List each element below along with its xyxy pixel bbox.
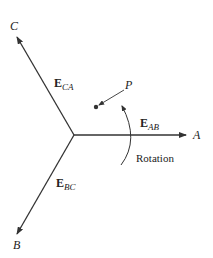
label-point-c: C — [10, 19, 19, 33]
label-point-a: A — [192, 128, 201, 142]
label-e-ab: EAB — [140, 116, 160, 132]
label-e-bc: EBC — [56, 176, 77, 192]
point-p-leader-arrow — [99, 90, 124, 105]
label-point-b: B — [13, 238, 21, 252]
phasor-diagram: C A B P ECA EAB EBC Rotation — [0, 0, 213, 258]
label-e-ca: ECA — [54, 76, 74, 92]
point-p-dot — [94, 105, 98, 109]
rotation-label: Rotation — [136, 152, 174, 164]
label-point-p: P — [124, 78, 133, 92]
